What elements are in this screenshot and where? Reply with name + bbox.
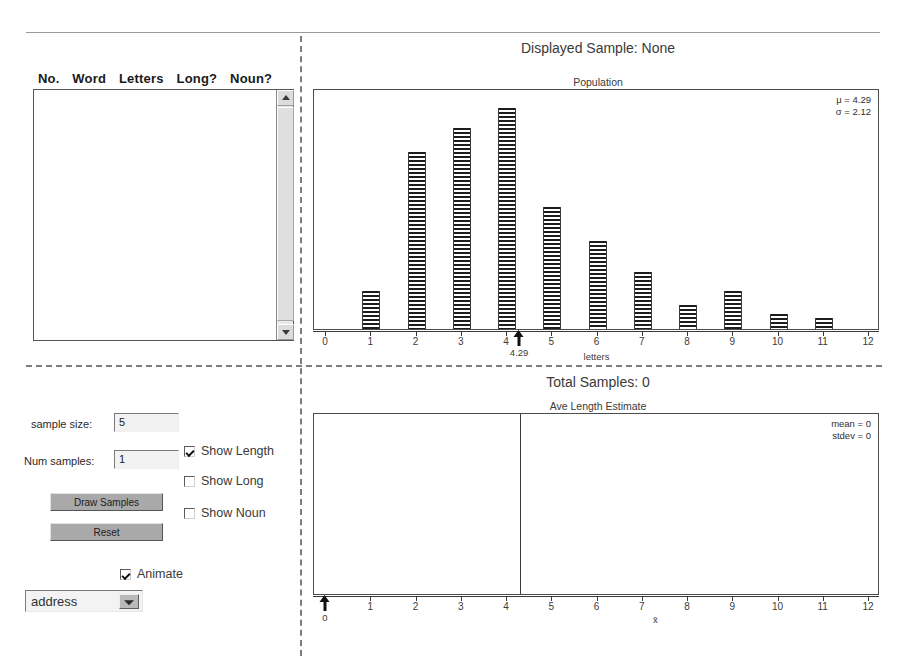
population-x-axis-label: letters [584, 351, 610, 362]
sample-size-label: sample size: [31, 418, 92, 430]
axis-tick-label: 7 [639, 601, 645, 612]
axis-tick-label: 2 [413, 336, 419, 347]
axis-tick-label: 6 [594, 601, 600, 612]
show-long-label: Show Long [201, 474, 264, 488]
column-header-letters: Letters [119, 71, 164, 86]
checkbox-icon-animate[interactable] [120, 569, 131, 580]
axis-tick-label: 11 [818, 336, 828, 347]
animate-label: Animate [137, 567, 183, 581]
bar [408, 152, 426, 329]
bar [543, 207, 561, 329]
column-header-word: Word [72, 71, 106, 86]
bar [498, 108, 516, 329]
axis-tick-label: 9 [729, 336, 735, 347]
checkbox-icon-show-long[interactable] [184, 476, 195, 487]
population-mean-marker-label: 4.29 [510, 347, 529, 358]
show-column-checkbox-group: Show Length Show Long Show Noun [180, 436, 299, 526]
axis-tick-label: 0 [322, 336, 328, 347]
scroll-up-icon[interactable] [277, 90, 294, 106]
dataset-select[interactable]: address [25, 590, 143, 612]
word-list-rows [34, 90, 293, 340]
applet-root: No. Word Letters Long? Noun? sample size… [0, 0, 904, 656]
word-list-scrollbar[interactable] [276, 90, 293, 340]
axis-tick-label: 4 [503, 601, 509, 612]
axis-tick-label: 12 [862, 601, 873, 612]
axis-tick-label: 8 [684, 601, 690, 612]
vertical-dashed-divider [300, 36, 302, 656]
population-bars [314, 90, 878, 329]
axis-tick-label: 10 [772, 336, 783, 347]
estimate-chart-title: Ave Length Estimate [318, 400, 878, 412]
show-length-label: Show Length [201, 444, 274, 458]
bar [724, 291, 742, 329]
axis-tick-label: 8 [684, 336, 690, 347]
word-list-box[interactable] [33, 89, 294, 341]
show-length-checkbox-row[interactable]: Show Length [184, 444, 274, 458]
axis-tick-label: 5 [548, 601, 554, 612]
checkbox-icon-show-noun[interactable] [184, 508, 195, 519]
axis-tick-label: 12 [862, 336, 873, 347]
axis-tick-label: 1 [367, 336, 373, 347]
total-samples-status: Total Samples: 0 [318, 374, 878, 390]
word-table-header: No. Word Letters Long? Noun? [38, 71, 272, 86]
column-header-noun: Noun? [230, 71, 272, 86]
scrollbar-thumb[interactable] [277, 107, 294, 321]
axis-tick-label: 11 [818, 601, 828, 612]
population-mean-marker-icon [514, 330, 525, 346]
reset-button[interactable]: Reset [50, 523, 163, 541]
bar [634, 272, 652, 329]
bar [679, 305, 697, 329]
bar [770, 314, 788, 329]
bar [815, 318, 833, 329]
horizontal-dashed-divider [26, 365, 882, 367]
estimate-bars [314, 414, 878, 594]
estimate-mean-marker-label: 0 [322, 612, 327, 623]
bar [589, 241, 607, 329]
axis-tick-label: 3 [458, 601, 464, 612]
show-noun-label: Show Noun [201, 506, 266, 520]
axis-tick-label: 2 [413, 601, 419, 612]
column-header-no: No. [38, 71, 60, 86]
axis-tick-label: 5 [548, 336, 554, 347]
dataset-select-value: address [31, 594, 77, 609]
axis-tick-label: 3 [458, 336, 464, 347]
top-divider-rule [26, 32, 880, 33]
draw-samples-button[interactable]: Draw Samples [50, 493, 163, 511]
population-chart-title: Population [318, 76, 878, 88]
show-noun-checkbox-row[interactable]: Show Noun [184, 506, 266, 520]
estimate-mean-marker-icon [320, 595, 331, 611]
population-histogram-plot: μ = 4.29 σ = 2.12 [313, 89, 879, 330]
axis-tick-label: 9 [729, 601, 735, 612]
displayed-sample-status: Displayed Sample: None [318, 40, 878, 56]
bar [362, 291, 380, 329]
axis-tick-label: 10 [772, 601, 783, 612]
axis-tick-label: 7 [639, 336, 645, 347]
animate-checkbox-row[interactable]: Animate [120, 567, 183, 581]
axis-tick-label: 1 [367, 601, 373, 612]
show-long-checkbox-row[interactable]: Show Long [184, 474, 264, 488]
sample-size-input[interactable]: 5 [114, 413, 179, 432]
bar [453, 128, 471, 329]
column-header-long: Long? [177, 71, 218, 86]
axis-tick-label: 4 [503, 336, 509, 347]
axis-tick-label: 6 [594, 336, 600, 347]
num-samples-input[interactable]: 1 [114, 450, 179, 469]
scroll-down-icon[interactable] [277, 324, 294, 340]
estimate-histogram-plot: mean = 0 stdev = 0 [313, 413, 879, 595]
num-samples-label: Num samples: [24, 455, 94, 467]
chevron-down-icon[interactable] [119, 594, 139, 609]
checkbox-icon-show-length[interactable] [184, 446, 195, 457]
estimate-x-axis-label: x̄ [653, 614, 658, 625]
